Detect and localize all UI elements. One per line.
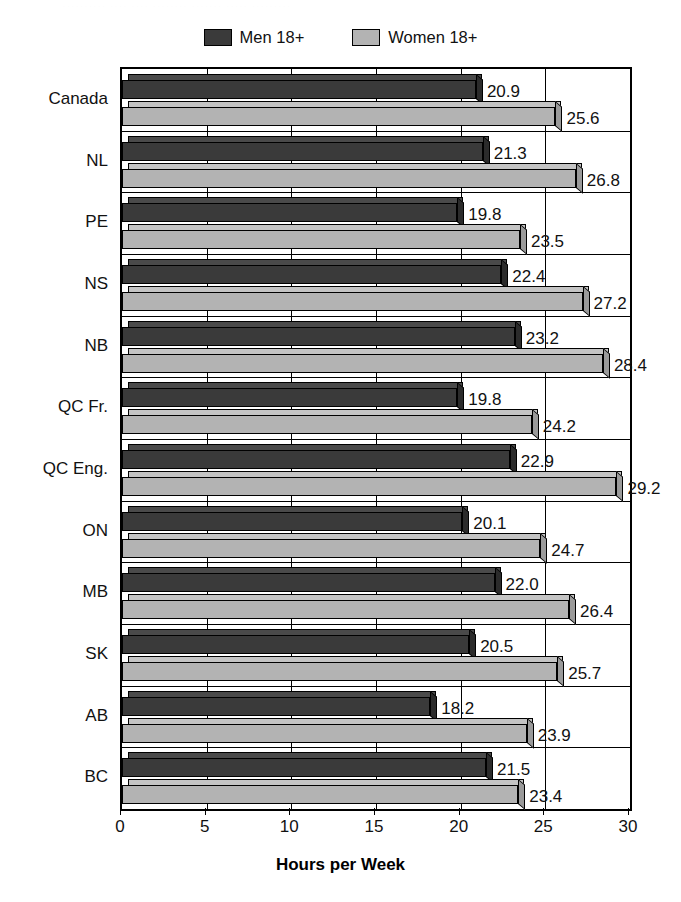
bar-group: 23.228.4 <box>122 316 630 378</box>
bar-top-face <box>128 409 538 415</box>
x-tick-mark-5 <box>205 808 206 815</box>
bar-men <box>122 259 507 278</box>
bar-women <box>122 224 526 243</box>
bar-end-cap <box>616 471 623 502</box>
bar-top-face <box>128 444 516 450</box>
bar-top-face <box>128 567 501 573</box>
bar-value-label: 19.8 <box>468 206 501 223</box>
bar-top-face <box>128 74 482 80</box>
legend-item-men: Men 18+ <box>204 29 305 46</box>
bar-top-face <box>128 197 463 203</box>
bar-value-label: 21.3 <box>494 145 527 162</box>
x-tick-label-0: 0 <box>100 818 140 835</box>
bar-end-cap <box>520 224 527 255</box>
bar-men <box>122 136 489 155</box>
bar-face <box>122 169 576 188</box>
bar-end-cap <box>603 348 610 379</box>
bar-top-face <box>128 594 575 600</box>
bar-face <box>122 477 616 496</box>
category-label-qc-eng: QC Eng. <box>0 460 108 477</box>
category-label-pe: PE <box>0 213 108 230</box>
x-tick-mark-0 <box>120 808 121 815</box>
x-tick-mark-25 <box>543 808 544 815</box>
bar-top-face <box>128 471 622 477</box>
category-label-on: ON <box>0 522 108 539</box>
bar-top-face <box>128 752 492 758</box>
bar-face <box>122 450 510 469</box>
legend-label-men: Men 18+ <box>240 29 305 46</box>
bar-group: 22.427.2 <box>122 254 630 316</box>
bar-women <box>122 163 582 182</box>
bar-men <box>122 321 521 340</box>
category-label-ns: NS <box>0 275 108 292</box>
bar-top-face <box>128 779 524 785</box>
bar-top-face <box>128 718 533 724</box>
bar-value-label: 27.2 <box>594 295 627 312</box>
x-tick-label-20: 20 <box>439 818 479 835</box>
bar-value-label: 23.4 <box>529 788 562 805</box>
x-tick-label-30: 30 <box>608 818 648 835</box>
bar-face <box>122 265 501 284</box>
bar-face <box>122 80 476 99</box>
bar-face <box>122 327 515 346</box>
bar-top-face <box>128 382 463 388</box>
bar-value-label: 20.5 <box>480 638 513 655</box>
bar-women <box>122 533 546 552</box>
bar-men <box>122 567 501 586</box>
bar-face <box>122 292 583 311</box>
bar-top-face <box>128 656 563 662</box>
bar-women <box>122 101 561 120</box>
chart-legend: Men 18+ Women 18+ <box>0 24 681 50</box>
bar-end-cap <box>527 718 534 749</box>
category-label-sk: SK <box>0 645 108 662</box>
bar-top-face <box>128 321 521 327</box>
bar-face <box>122 697 430 716</box>
bar-women <box>122 348 609 367</box>
bar-face <box>122 635 469 654</box>
x-tick-mark-30 <box>628 808 629 815</box>
category-label-canada: Canada <box>0 90 108 107</box>
bar-group: 18.223.9 <box>122 686 630 748</box>
bar-group: 22.026.4 <box>122 562 630 624</box>
bar-value-label: 23.2 <box>526 330 559 347</box>
bar-top-face <box>128 629 475 635</box>
bar-face <box>122 142 483 161</box>
category-label-bc: BC <box>0 768 108 785</box>
bar-women <box>122 718 533 737</box>
bar-end-cap <box>555 101 562 132</box>
bar-top-face <box>128 259 507 265</box>
bar-women <box>122 409 538 428</box>
bar-top-face <box>128 136 489 142</box>
bar-group: 20.124.7 <box>122 501 630 563</box>
bar-top-face <box>128 348 609 354</box>
category-label-nb: NB <box>0 337 108 354</box>
bar-end-cap <box>583 286 590 317</box>
bar-group: 20.525.7 <box>122 624 630 686</box>
bar-top-face <box>128 691 436 697</box>
legend-label-women: Women 18+ <box>388 29 477 46</box>
bar-value-label: 26.4 <box>580 603 613 620</box>
bar-face <box>122 230 520 249</box>
bar-face <box>122 758 486 777</box>
bar-face <box>122 415 532 434</box>
bar-end-cap <box>518 779 525 810</box>
bar-top-face <box>128 224 526 230</box>
bar-top-face <box>128 533 546 539</box>
x-tick-label-10: 10 <box>269 818 309 835</box>
chart-plot-area: 20.925.621.326.819.823.522.427.223.228.4… <box>120 67 632 811</box>
bar-face <box>122 388 457 407</box>
bar-women <box>122 594 575 613</box>
bar-value-label: 23.5 <box>531 233 564 250</box>
x-tick-label-25: 25 <box>523 818 563 835</box>
bar-group: 20.925.6 <box>122 69 630 131</box>
category-label-nl: NL <box>0 152 108 169</box>
bar-top-face <box>128 163 582 169</box>
bar-value-label: 22.0 <box>506 576 539 593</box>
x-tick-mark-10 <box>289 808 290 815</box>
category-label-ab: AB <box>0 707 108 724</box>
x-tick-mark-15 <box>374 808 375 815</box>
bar-men <box>122 444 516 463</box>
bar-women <box>122 656 563 675</box>
bar-men <box>122 506 468 525</box>
bar-value-label: 28.4 <box>614 357 647 374</box>
